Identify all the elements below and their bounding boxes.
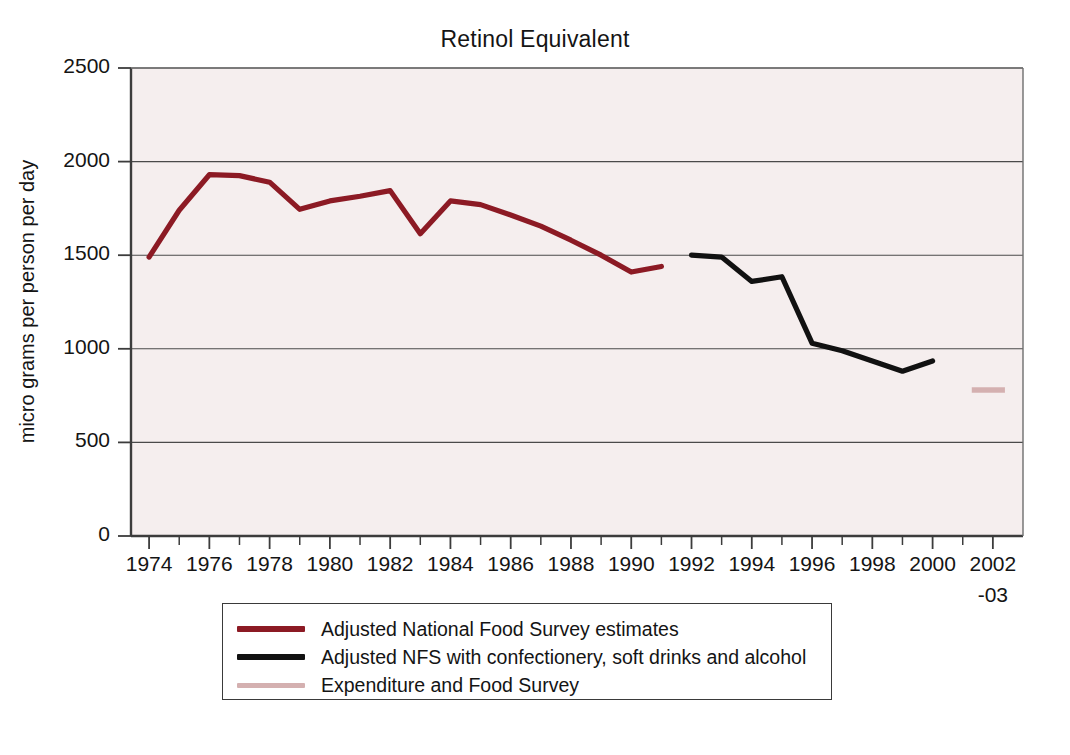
- legend-item[interactable]: Expenditure and Food Survey: [223, 670, 831, 700]
- legend-item[interactable]: Adjusted NFS with confectionery, soft dr…: [223, 642, 831, 672]
- legend-label: Adjusted National Food Survey estimates: [321, 618, 679, 641]
- legend-swatch-icon: [237, 654, 305, 660]
- chart-figure: Retinol Equivalent micro grams per perso…: [0, 0, 1070, 755]
- legend-label: Expenditure and Food Survey: [321, 674, 579, 697]
- chart-legend: Adjusted National Food Survey estimatesA…: [222, 603, 832, 700]
- legend-swatch-icon: [237, 683, 305, 688]
- legend-swatch-icon: [237, 626, 305, 632]
- plot-background: [131, 68, 1023, 536]
- legend-label: Adjusted NFS with confectionery, soft dr…: [321, 646, 806, 669]
- legend-item[interactable]: Adjusted National Food Survey estimates: [223, 614, 831, 644]
